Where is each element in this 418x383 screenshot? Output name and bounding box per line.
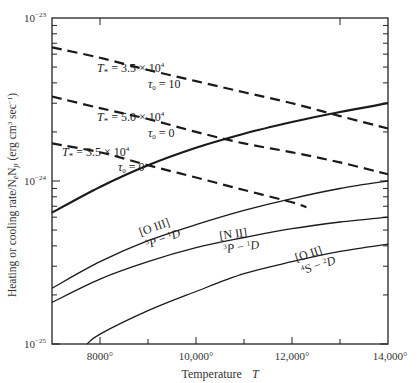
label-oiii: [O III] 3P − 1D (137, 213, 182, 252)
svg-text:τ0 = 0: τ0 = 0 (118, 160, 145, 175)
annotation-heating-50e4-tau0: T* = 5.0 × 104 τ0 = 0 (97, 110, 175, 141)
svg-text:T* = 3.5 × 104: T* = 3.5 × 104 (97, 61, 165, 77)
y-tick-label-1e-23: 10−23 (24, 11, 46, 24)
label-nii: [N II] 3P − 1D (219, 223, 261, 256)
x-tick-labels: 8000° 10,000° 12,000° 14,000° (87, 350, 408, 362)
y-tick-label-1e-24: 10−24 (24, 174, 46, 187)
x-tick-label-14000: 14,000° (373, 350, 408, 362)
curve-heating-t-5-0-10-4-0-0 (52, 97, 388, 175)
svg-text:τ0 = 0: τ0 = 0 (148, 126, 175, 141)
x-tick-label-8000: 8000° (87, 350, 113, 362)
annotation-heating-35e4-tau10: T* = 3.5 × 104 τ0 = 10 (97, 61, 181, 92)
chart: 10−23 10−24 10−25 8000° 10,000° 12,000° … (0, 0, 418, 383)
y-tick-label-1e-25: 10−25 (24, 337, 46, 350)
annotation-heating-35e4-tau0: T* = 3.5 × 104 τ0 = 0 (62, 145, 145, 175)
curve-o-ii-4s-2d (87, 244, 388, 344)
svg-text:τ0 = 10: τ0 = 10 (148, 77, 181, 92)
x-tick-label-10000: 10,000° (179, 350, 214, 362)
x-tick-label-12000: 12,000° (275, 350, 310, 362)
svg-text:T* = 5.0 × 104: T* = 5.0 × 104 (97, 110, 165, 126)
label-oii: [O II] 4S − 2D (293, 240, 337, 278)
curves (52, 47, 388, 344)
y-tick-labels: 10−23 10−24 10−25 (24, 11, 46, 350)
y-axis-title: Heating or cooling rate/NeNp (erg cm3 se… (6, 93, 20, 297)
x-axis-title: TemperatureT (181, 367, 259, 381)
